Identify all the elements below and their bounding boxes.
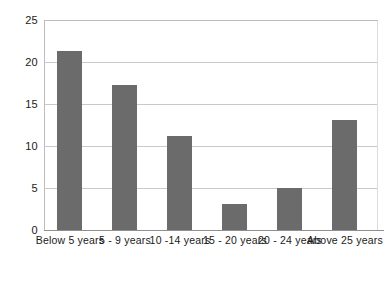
bar-20-24-years <box>277 188 302 230</box>
y-tick-label-15: 15 <box>4 98 38 110</box>
bar-5-9-years <box>112 85 137 230</box>
x-axis-line <box>44 230 384 231</box>
y-tick-label-10: 10 <box>4 140 38 152</box>
bar-chart: 25 20 15 10 5 0 Below 5 years 5 - 9 year… <box>0 0 392 282</box>
bars-layer <box>44 20 378 230</box>
y-tick-label-20: 20 <box>4 56 38 68</box>
bar-10-14-years <box>167 136 192 230</box>
x-tick-label-above-25-years: Above 25 years <box>307 234 383 247</box>
y-tick-label-25: 25 <box>4 14 38 26</box>
x-axis-labels: Below 5 years 5 - 9 years 10 -14 years 1… <box>44 234 378 278</box>
bar-15-20-years <box>222 204 247 230</box>
bar-below-5-years <box>57 51 82 230</box>
bar-above-25-years <box>332 120 357 230</box>
y-tick-label-5: 5 <box>4 182 38 194</box>
